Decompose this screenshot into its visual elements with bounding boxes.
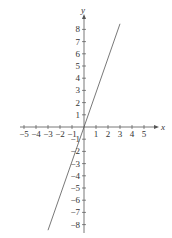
- x-tick-label: 3: [118, 129, 123, 139]
- x-tick-label: 1: [94, 129, 99, 139]
- y-tick-label: −3: [70, 159, 80, 169]
- x-tick-label: 2: [106, 129, 111, 139]
- y-axis-label: y: [80, 5, 85, 15]
- y-tick-label: −8: [70, 220, 80, 230]
- x-tick-label: 5: [142, 129, 147, 139]
- y-tick-label: −7: [70, 207, 80, 217]
- x-tick-label: −4: [31, 129, 41, 139]
- x-tick-label: −3: [43, 129, 53, 139]
- y-tick-label: −6: [70, 195, 80, 205]
- y-tick-label: 8: [76, 24, 81, 34]
- y-tick-label: −4: [70, 171, 80, 181]
- y-tick-label: 6: [76, 49, 81, 59]
- chart-canvas: x y −5−4−3−2−112345 87654321−1−2−3−4−5−6…: [0, 0, 172, 238]
- x-axis-arrow-icon: [154, 125, 159, 129]
- y-tick-label: −5: [70, 183, 80, 193]
- y-tick-label: 4: [76, 73, 81, 83]
- y-tick-label: 7: [76, 37, 81, 47]
- x-tick-label: −2: [55, 129, 65, 139]
- y-tick-label: 5: [76, 61, 81, 71]
- x-tick-label: −5: [19, 129, 29, 139]
- y-tick-label: 1: [76, 110, 81, 120]
- y-tick-label: 2: [76, 98, 81, 108]
- x-axis-label: x: [160, 122, 165, 132]
- y-tick-label: 3: [76, 85, 81, 95]
- x-tick-label: 4: [130, 129, 135, 139]
